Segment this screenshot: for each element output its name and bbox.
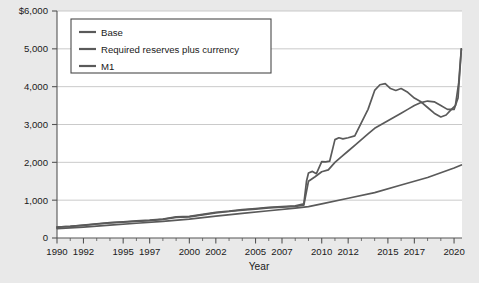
x-axis-tick-label: 2012 <box>338 246 359 257</box>
money-aggregates-line-chart: 01,0002,0003,0004,0005,000$6,000 1990199… <box>0 0 479 283</box>
x-axis-tick-label: 2007 <box>271 246 292 257</box>
x-axis-title: Year <box>249 261 270 272</box>
y-axis-tick-label: 4,000 <box>24 81 48 92</box>
y-axis-tick-label: 0 <box>43 232 48 243</box>
chart-legend: BaseRequired reserves plus currencyM1 <box>71 19 271 73</box>
x-axis-tick-label: 2010 <box>311 246 332 257</box>
x-axis-tick-label: 1990 <box>46 246 67 257</box>
y-axis-tick-label: 5,000 <box>24 43 48 54</box>
y-axis-tick-label: 2,000 <box>24 157 48 168</box>
x-axis-tick-label: 2000 <box>179 246 200 257</box>
x-axis-tick-label: 2002 <box>205 246 226 257</box>
y-axis-tick-label: $6,000 <box>19 5 48 16</box>
x-axis-tick-label: 2015 <box>377 246 398 257</box>
x-axis-tick-label: 1995 <box>113 246 134 257</box>
x-axis-tick-label: 1997 <box>139 246 160 257</box>
y-axis-tick-label: 3,000 <box>24 119 48 130</box>
x-axis-tick-label: 2020 <box>443 246 464 257</box>
x-axis-tick-label: 1992 <box>73 246 94 257</box>
legend-label-1: Base <box>101 27 123 38</box>
legend-label-2: Required reserves plus currency <box>101 44 239 55</box>
x-axis-tick-label: 2005 <box>245 246 266 257</box>
legend-label-3: M1 <box>101 61 114 72</box>
chart-figure: 01,0002,0003,0004,0005,000$6,000 1990199… <box>0 0 479 283</box>
x-axis-tick-label: 2017 <box>404 246 425 257</box>
y-axis-tick-label: 1,000 <box>24 195 48 206</box>
